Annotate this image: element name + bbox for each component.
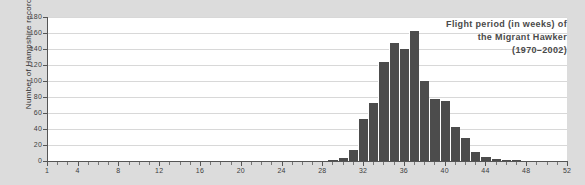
x-tick-mark [149, 162, 150, 165]
bar [429, 99, 439, 161]
x-tick-mark [363, 162, 364, 166]
x-tick-mark [547, 162, 548, 165]
x-tick-label: 44 [473, 167, 497, 175]
x-tick-mark [353, 162, 354, 165]
x-tick-mark [139, 162, 140, 165]
x-tick-mark [343, 162, 344, 165]
bar [470, 152, 480, 161]
x-tick-mark [475, 162, 476, 165]
x-tick-label: 32 [351, 167, 375, 175]
x-tick-mark [251, 162, 252, 165]
x-tick-mark [312, 162, 313, 165]
x-tick-mark [118, 162, 119, 166]
x-tick-mark [557, 162, 558, 165]
x-tick-label: 12 [147, 167, 171, 175]
x-tick-mark [88, 162, 89, 165]
x-tick-label: 20 [229, 167, 253, 175]
x-tick-mark [98, 162, 99, 165]
chart-title-line-1: Flight period (in weeks) of [446, 18, 567, 31]
bar [419, 81, 429, 161]
y-tick-mark [43, 17, 47, 18]
x-tick-mark [169, 162, 170, 165]
y-axis-label: Number of Hampshire records [24, 0, 33, 127]
x-tick-mark [445, 162, 446, 166]
x-tick-mark [383, 162, 384, 165]
x-tick-mark [506, 162, 507, 165]
y-tick-mark [43, 97, 47, 98]
x-tick-mark [516, 162, 517, 165]
x-tick-mark [190, 162, 191, 165]
y-tick-label: 180 [2, 13, 42, 20]
x-tick-mark [404, 162, 405, 166]
x-tick-mark [241, 162, 242, 166]
bar [440, 101, 450, 161]
x-tick-mark [271, 162, 272, 165]
x-tick-mark [78, 162, 79, 166]
y-tick-label: 20 [2, 141, 42, 148]
bar [399, 49, 409, 161]
x-tick-label: 1 [35, 167, 59, 175]
y-tick-label: 60 [2, 109, 42, 116]
x-tick-mark [47, 162, 48, 166]
x-tick-label: 36 [392, 167, 416, 175]
y-tick-mark [43, 65, 47, 66]
x-tick-label: 40 [433, 167, 457, 175]
x-tick-mark [200, 162, 201, 166]
x-tick-label: 4 [66, 167, 90, 175]
x-tick-mark [302, 162, 303, 165]
y-tick-mark [43, 49, 47, 50]
bar [460, 138, 470, 161]
y-tick-label: 160 [2, 29, 42, 36]
x-tick-mark [129, 162, 130, 165]
x-tick-mark [210, 162, 211, 165]
x-tick-label: 52 [555, 167, 579, 175]
bar [348, 150, 358, 161]
bar [450, 127, 460, 161]
x-tick-mark [394, 162, 395, 165]
x-tick-mark [332, 162, 333, 165]
x-tick-label: 16 [188, 167, 212, 175]
y-tick-mark [43, 113, 47, 114]
y-tick-mark [43, 33, 47, 34]
x-tick-mark [496, 162, 497, 165]
x-tick-mark [180, 162, 181, 165]
x-tick-label: 8 [106, 167, 130, 175]
x-tick-label: 28 [310, 167, 334, 175]
y-tick-label: 120 [2, 61, 42, 68]
chart-title-line-3: (1970–2002) [446, 44, 567, 57]
x-tick-mark [567, 162, 568, 166]
y-tick-label: 80 [2, 93, 42, 100]
x-tick-mark [108, 162, 109, 165]
y-tick-label: 140 [2, 45, 42, 52]
x-axis-line [47, 161, 568, 162]
x-tick-mark [159, 162, 160, 166]
x-tick-label: 48 [514, 167, 538, 175]
bar [378, 62, 388, 161]
x-tick-mark [485, 162, 486, 166]
x-tick-mark [373, 162, 374, 165]
chart-figure: 020406080100120140160180 148121620242832… [0, 0, 585, 185]
x-tick-mark [282, 162, 283, 166]
y-tick-mark [43, 145, 47, 146]
x-tick-mark [322, 162, 323, 166]
bar [389, 43, 399, 161]
x-tick-mark [526, 162, 527, 166]
bar [409, 31, 419, 161]
x-tick-mark [261, 162, 262, 165]
x-tick-mark [292, 162, 293, 165]
x-tick-mark [424, 162, 425, 165]
y-tick-label: 40 [2, 125, 42, 132]
chart-title-line-2: the Migrant Hawker [446, 31, 567, 44]
x-tick-mark [231, 162, 232, 165]
x-tick-mark [455, 162, 456, 165]
x-tick-mark [67, 162, 68, 165]
bar [358, 119, 368, 161]
bar [368, 103, 378, 161]
x-tick-mark [57, 162, 58, 165]
y-tick-label: 0 [2, 157, 42, 164]
x-tick-mark [536, 162, 537, 165]
x-tick-mark [434, 162, 435, 165]
y-tick-mark [43, 81, 47, 82]
x-tick-label: 24 [270, 167, 294, 175]
y-tick-label: 100 [2, 77, 42, 84]
